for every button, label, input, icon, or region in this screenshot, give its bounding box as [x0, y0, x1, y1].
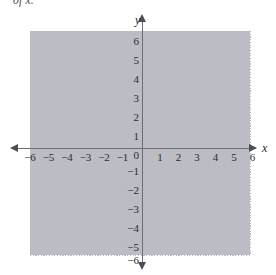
y-axis-label: y	[135, 14, 140, 26]
gridline-horizontal	[30, 223, 250, 224]
figure-canvas: of x.	[0, 0, 276, 275]
gridline-vertical	[160, 31, 161, 255]
x-tick-label: −3	[78, 152, 94, 163]
x-tick-label: 4	[208, 152, 224, 163]
gridline-horizontal	[30, 31, 250, 32]
gridline-vertical	[30, 31, 31, 255]
y-axis-line	[142, 20, 143, 266]
gridline-horizontal	[30, 204, 250, 205]
x-tick-label: −4	[59, 152, 75, 163]
gridline-vertical	[86, 31, 87, 255]
x-tick-label: 2	[171, 152, 187, 163]
y-tick-label: −5	[123, 242, 139, 253]
y-tick-label: −4	[123, 223, 139, 234]
y-tick-label: 6	[123, 36, 139, 47]
gridline-horizontal	[30, 69, 250, 70]
gridline-horizontal	[30, 242, 250, 243]
gridline-horizontal	[30, 107, 250, 108]
gridline-vertical	[215, 31, 216, 255]
y-tick-label: −6	[123, 255, 139, 266]
gridline-vertical	[49, 31, 50, 255]
y-tick-label: −3	[123, 204, 139, 215]
x-tick-label: −6	[22, 152, 38, 163]
gridline-horizontal	[30, 166, 250, 167]
x-tick-label: 5	[226, 152, 242, 163]
gridline-horizontal	[30, 88, 250, 89]
y-tick-label: 2	[123, 112, 139, 123]
gridline-vertical	[104, 31, 105, 255]
y-tick-label: −2	[123, 185, 139, 196]
y-tick-label: 5	[123, 55, 139, 66]
x-tick-label: 1	[152, 152, 168, 163]
gridline-horizontal	[30, 50, 250, 51]
gridline-horizontal	[30, 126, 250, 127]
y-tick-label: 4	[123, 74, 139, 85]
x-tick-label: −2	[96, 152, 112, 163]
x-axis-left-arrowhead-icon	[10, 144, 18, 152]
x-tick-label: 6	[245, 152, 261, 163]
grid-background	[30, 31, 250, 255]
coordinate-plane: x y 0 −6 −5 −4 −3 −2 −1 1 2 3 4 5 6 6 5 …	[0, 0, 276, 275]
y-tick-label: −1	[123, 166, 139, 177]
x-tick-label: −1	[115, 152, 131, 163]
gridline-horizontal	[30, 255, 250, 256]
x-tick-label: 3	[189, 152, 205, 163]
x-axis-label: x	[262, 142, 267, 154]
y-tick-label: 3	[123, 93, 139, 104]
y-tick-label: 1	[123, 131, 139, 142]
gridline-vertical	[234, 31, 235, 255]
gridline-vertical	[67, 31, 68, 255]
x-tick-label: −5	[41, 152, 57, 163]
gridline-vertical	[178, 31, 179, 255]
gridline-vertical	[197, 31, 198, 255]
gridline-horizontal	[30, 185, 250, 186]
origin-tick-label: 0	[130, 150, 139, 161]
